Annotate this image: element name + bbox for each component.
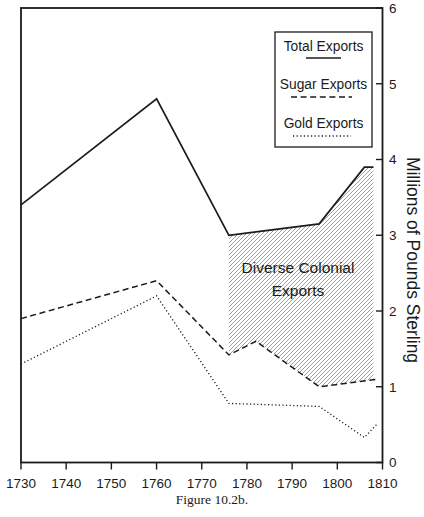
diverse-region xyxy=(229,167,374,387)
x-axis-tick-label: 1770 xyxy=(187,476,217,491)
export-line-chart: Diverse ColonialExports17301740175017601… xyxy=(0,0,424,492)
figure-caption: Figure 10.2b. xyxy=(0,492,424,508)
y-axis-tick-label: 3 xyxy=(389,228,397,243)
y-axis-tick-label: 2 xyxy=(389,304,397,319)
legend-label-dotted: Gold Exports xyxy=(284,116,364,131)
x-axis-tick-label: 1760 xyxy=(142,476,172,491)
y-axis-tick-label: 5 xyxy=(389,77,397,92)
x-axis-tick-label: 1780 xyxy=(232,476,262,491)
y-axis-tick-label: 0 xyxy=(389,455,397,470)
legend-label-dashed: Sugar Exports xyxy=(280,77,368,92)
x-axis-tick-label: 1740 xyxy=(51,476,81,491)
x-axis-tick-label: 1750 xyxy=(96,476,126,491)
x-axis-tick-label: 1800 xyxy=(322,476,352,491)
x-axis-tick-label: 1730 xyxy=(6,476,36,491)
y-axis-title: Millions of Pounds Sterling xyxy=(403,157,423,363)
legend: Total ExportsSugar ExportsGold Exports xyxy=(275,32,372,147)
x-axis-tick-label: 1790 xyxy=(277,476,307,491)
chart-figure: Diverse ColonialExports17301740175017601… xyxy=(0,0,424,517)
y-axis-tick-label: 1 xyxy=(389,380,397,395)
legend-label-solid: Total Exports xyxy=(284,39,364,54)
y-axis-tick-label: 6 xyxy=(389,1,397,16)
x-axis-tick-label: 1810 xyxy=(367,476,397,491)
diverse-region-label-line1: Diverse Colonial xyxy=(242,259,355,276)
diverse-region-label-line2: Exports xyxy=(272,282,325,299)
y-axis-tick-label: 4 xyxy=(389,152,397,167)
